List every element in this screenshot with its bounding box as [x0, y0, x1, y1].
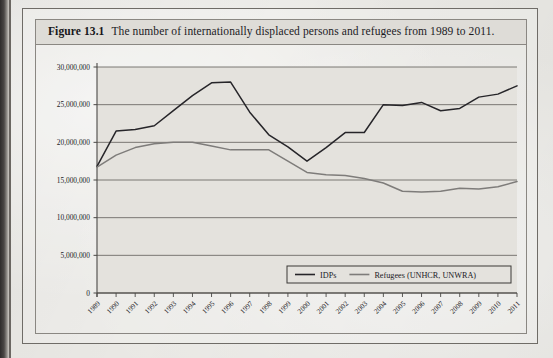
x-tick-label: 1989: [86, 299, 102, 315]
y-tick-label: 20,000,000: [57, 138, 91, 147]
figure-outer-frame: Figure 13.1 The number of internationall…: [22, 8, 538, 344]
y-axis-tick-labels: 05,000,00010,000,00015,000,00020,000,000…: [57, 63, 97, 298]
x-tick-label: 1992: [143, 299, 159, 315]
x-tick-label: 2006: [411, 299, 427, 315]
x-tick-label: 2009: [468, 299, 484, 315]
x-tick-label: 1996: [220, 299, 236, 315]
x-tick-label: 1994: [182, 299, 198, 315]
x-tick-label: 2010: [487, 299, 503, 315]
x-tick-label: 2002: [334, 299, 350, 315]
x-tick-label: 2001: [315, 299, 331, 315]
x-tick-label: 1998: [258, 299, 274, 315]
figure-caption-text: The number of internationally displaced …: [111, 25, 494, 37]
x-tick-label: 2005: [392, 299, 408, 315]
x-tick-label: 1991: [124, 299, 140, 315]
x-tick-label: 1997: [239, 299, 255, 315]
x-tick-label: 2003: [353, 299, 369, 315]
book-gutter-shadow: [0, 0, 9, 358]
y-tick-label: 0: [86, 289, 90, 298]
y-tick-label: 25,000,000: [57, 100, 91, 109]
x-tick-label: 1993: [162, 299, 178, 315]
y-tick-label: 15,000,000: [57, 176, 91, 185]
legend-label: IDPs: [320, 271, 336, 280]
book-gutter-line: [9, 0, 11, 358]
legend-label: Refugees (UNHCR, UNWRA): [374, 271, 476, 280]
x-tick-label: 1995: [201, 299, 217, 315]
x-tick-label: 2007: [430, 299, 446, 315]
y-tick-label: 30,000,000: [57, 63, 91, 72]
x-tick-label: 2000: [296, 299, 312, 315]
x-tick-label: 2004: [372, 299, 388, 315]
figure-number-label: Figure 13.1: [48, 25, 104, 37]
x-tick-label: 2011: [506, 299, 522, 315]
x-tick-label: 2008: [449, 299, 465, 315]
y-tick-label: 5,000,000: [60, 251, 90, 260]
line-chart: 05,000,00010,000,00015,000,00020,000,000…: [35, 45, 527, 334]
chart-plot-container: 05,000,00010,000,00015,000,00020,000,000…: [35, 45, 527, 334]
y-tick-label: 10,000,000: [57, 213, 91, 222]
book-page: Figure 13.1 The number of internationall…: [0, 0, 553, 358]
x-tick-label: 1990: [105, 299, 121, 315]
figure-caption-box: Figure 13.1 The number of internationall…: [35, 19, 527, 45]
x-axis-tick-labels: 1989199019911992199319941995199619971998…: [86, 293, 522, 316]
x-tick-label: 1999: [277, 299, 293, 315]
chart-legend: IDPsRefugees (UNHCR, UNWRA): [287, 266, 511, 283]
